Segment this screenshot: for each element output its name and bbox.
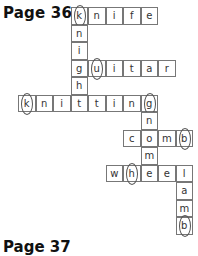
crossword-cell: o bbox=[141, 130, 159, 148]
crossword-cell: w bbox=[106, 165, 124, 183]
cell-letter: i bbox=[113, 10, 116, 21]
crossword-cell: g bbox=[141, 95, 159, 113]
cell-letter: m bbox=[162, 133, 172, 144]
crossword-cell: n bbox=[71, 25, 89, 43]
crossword-cell: b bbox=[176, 130, 194, 148]
crossword-cell: l bbox=[176, 165, 194, 183]
cell-letter: g bbox=[76, 63, 82, 74]
cell-letter: c bbox=[129, 133, 135, 144]
page-footer-title: Page 37 bbox=[3, 238, 71, 256]
crossword-cell: a bbox=[141, 60, 159, 78]
circle-marker-icon bbox=[179, 215, 191, 237]
cell-letter: o bbox=[146, 133, 152, 144]
cell-letter: m bbox=[179, 203, 189, 214]
crossword-cell: a bbox=[176, 182, 194, 200]
cell-letter: a bbox=[146, 63, 152, 74]
cell-letter: n bbox=[94, 10, 100, 21]
cell-letter: i bbox=[60, 98, 63, 109]
crossword-cell: n bbox=[123, 95, 141, 113]
crossword-cell: k bbox=[71, 7, 89, 25]
cell-letter: n bbox=[146, 115, 152, 126]
cell-letter: n bbox=[76, 28, 82, 39]
crossword-cell: r bbox=[158, 60, 176, 78]
cell-letter: i bbox=[78, 45, 81, 56]
cell-letter: e bbox=[164, 168, 170, 179]
crossword-cell: h bbox=[71, 77, 89, 95]
crossword-cell: n bbox=[36, 95, 54, 113]
cell-letter: w bbox=[110, 168, 118, 179]
crossword-cell: u bbox=[88, 60, 106, 78]
crossword-cell: b bbox=[176, 217, 194, 235]
crossword-cell: e bbox=[141, 7, 159, 25]
crossword-cell: e bbox=[141, 165, 159, 183]
cell-letter: a bbox=[181, 185, 187, 196]
crossword-cell: t bbox=[71, 95, 89, 113]
crossword-cell: f bbox=[123, 7, 141, 25]
circle-marker-icon bbox=[179, 128, 191, 150]
cell-letter: n bbox=[41, 98, 47, 109]
cell-letter: t bbox=[77, 98, 81, 109]
crossword-cell: e bbox=[158, 165, 176, 183]
cell-letter: e bbox=[146, 168, 152, 179]
cell-letter: t bbox=[130, 63, 134, 74]
crossword-cell: i bbox=[53, 95, 71, 113]
cell-letter: t bbox=[95, 98, 99, 109]
crossword-cell: i bbox=[71, 42, 89, 60]
crossword-cell: m bbox=[141, 147, 159, 165]
cell-letter: e bbox=[146, 10, 152, 21]
crossword-cell: i bbox=[106, 95, 124, 113]
cell-letter: f bbox=[130, 10, 134, 21]
cell-letter: h bbox=[76, 80, 82, 91]
crossword-cell: m bbox=[158, 130, 176, 148]
circle-marker-icon bbox=[91, 58, 103, 80]
cell-letter: r bbox=[165, 63, 169, 74]
crossword-cell: t bbox=[123, 60, 141, 78]
crossword-cell: g bbox=[71, 60, 89, 78]
crossword-cell: i bbox=[106, 60, 124, 78]
cell-letter: i bbox=[113, 63, 116, 74]
cell-letter: n bbox=[129, 98, 135, 109]
crossword-cell: n bbox=[141, 112, 159, 130]
circle-marker-icon bbox=[126, 163, 138, 185]
crossword-cell: i bbox=[106, 7, 124, 25]
crossword-cell: t bbox=[88, 95, 106, 113]
cell-letter: i bbox=[113, 98, 116, 109]
circle-marker-icon bbox=[21, 93, 33, 115]
crossword-cell: k bbox=[18, 95, 36, 113]
crossword-cell: h bbox=[123, 165, 141, 183]
cell-letter: l bbox=[183, 168, 186, 179]
crossword-cell: c bbox=[123, 130, 141, 148]
crossword-cell: n bbox=[88, 7, 106, 25]
cell-letter: m bbox=[144, 150, 154, 161]
